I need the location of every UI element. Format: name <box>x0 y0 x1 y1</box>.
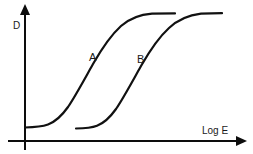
curve-b-path <box>76 13 222 128</box>
curve-label-a: A <box>89 51 97 63</box>
x-axis <box>8 136 247 146</box>
curve-label-b: B <box>137 53 144 65</box>
characteristic-curve-figure: D Log E A B <box>0 0 253 154</box>
arrow-up-icon <box>20 4 30 15</box>
curve-a-path <box>25 13 175 127</box>
x-axis-label: Log E <box>202 125 228 136</box>
arrow-right-icon <box>236 136 247 146</box>
y-axis-label: D <box>13 20 20 31</box>
chart-canvas: D Log E A B <box>0 0 253 154</box>
